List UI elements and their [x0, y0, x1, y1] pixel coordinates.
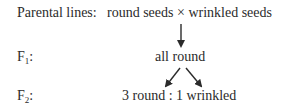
- arrow-down-right-icon: [186, 68, 201, 86]
- arrows: [0, 0, 285, 111]
- arrow-down-left-icon: [166, 68, 180, 86]
